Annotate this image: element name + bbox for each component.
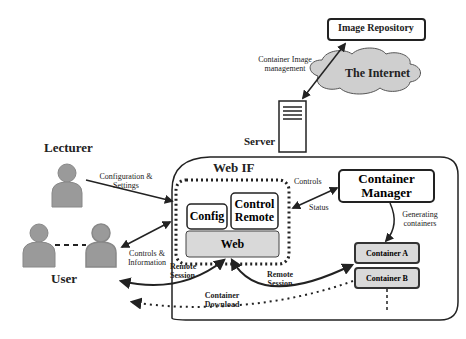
user-person-icon-2 <box>86 224 116 267</box>
server-icon <box>279 101 306 152</box>
generating-arrow <box>386 203 394 241</box>
config-label: Config <box>187 204 227 229</box>
lecturer-person-icon <box>52 164 82 207</box>
controls-label: Controls <box>294 177 322 186</box>
image-repository-label: Image Repository <box>338 22 414 33</box>
control-remote-label: Control Remote <box>231 193 278 229</box>
server-label: Server <box>244 135 275 147</box>
remote-session-label-1: Remote Session <box>170 262 206 280</box>
container-manager-label: Container Manager <box>339 170 434 202</box>
web-if-label: Web IF <box>213 160 255 176</box>
remote-session-label-2: Remote Session <box>262 270 298 288</box>
controls-info-arrow <box>122 222 170 247</box>
status-label: Status <box>309 203 329 212</box>
container-a-label: Container A <box>355 243 419 263</box>
controls-info-label: Controls & Information <box>124 249 170 267</box>
internet-label: The Internet <box>345 66 410 81</box>
user-person-icon-1 <box>23 224 55 267</box>
config-settings-label: Configuration & Settings <box>96 172 156 190</box>
container-b-label: Container B <box>355 268 419 288</box>
web-label: Web <box>186 231 279 257</box>
generating-label: Generating containers <box>396 210 444 228</box>
image-management-label: Container Image management <box>254 55 316 73</box>
user-label: User <box>51 271 77 287</box>
lecturer-label: Lecturer <box>44 140 93 156</box>
container-download-label: Container Download <box>200 291 244 309</box>
